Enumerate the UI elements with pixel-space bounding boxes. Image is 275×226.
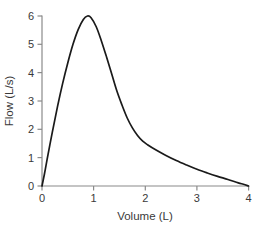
flow-volume-chart: 0 1 2 3 4 5 6 0 1 2 3 4 Volume (L) Flow … bbox=[0, 0, 275, 226]
y-tick-label-5: 5 bbox=[28, 38, 34, 50]
y-tick-label-3: 3 bbox=[28, 95, 34, 107]
x-tick-label-1: 1 bbox=[91, 192, 97, 204]
x-tick-label-4: 4 bbox=[246, 192, 252, 204]
y-tick-label-0: 0 bbox=[28, 180, 34, 192]
y-axis-title: Flow (L/s) bbox=[3, 76, 15, 127]
x-axis-ticks bbox=[42, 186, 249, 191]
x-tick-label-0: 0 bbox=[39, 192, 45, 204]
y-tick-label-4: 4 bbox=[28, 67, 34, 79]
chart-canvas: 0 1 2 3 4 5 6 0 1 2 3 4 Volume (L) Flow … bbox=[0, 0, 275, 226]
flow-volume-curve bbox=[42, 16, 249, 186]
y-tick-label-6: 6 bbox=[28, 10, 34, 22]
y-tick-label-1: 1 bbox=[28, 152, 34, 164]
y-tick-label-2: 2 bbox=[28, 123, 34, 135]
y-axis-ticks bbox=[38, 16, 43, 186]
x-tick-label-2: 2 bbox=[142, 192, 148, 204]
x-axis-title: Volume (L) bbox=[117, 210, 173, 222]
x-tick-label-3: 3 bbox=[194, 192, 200, 204]
